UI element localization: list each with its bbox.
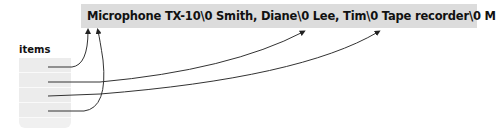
pointer-arrow-3: [48, 31, 104, 111]
pointer-arrows: [0, 0, 496, 130]
pointer-arrow-1: [48, 32, 303, 82]
pointer-arrow-0: [48, 31, 88, 67]
